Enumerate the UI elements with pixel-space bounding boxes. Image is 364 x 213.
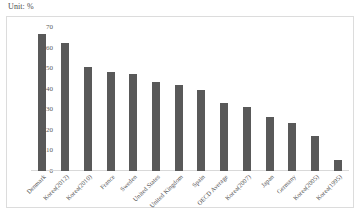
bar-slot [190,27,213,171]
chart-frame: 010203040506070 DenmarkKorea(2012)Korea(… [6,16,354,208]
x-axis-label-slot: United Kingdom [167,173,190,213]
bar [288,123,296,171]
x-axis-label-slot: Korea(1995) [326,173,349,213]
x-axis-label-slot: Korea(2007) [235,173,258,213]
bar-slot [145,27,168,171]
x-axis-label: Sweden [119,173,138,192]
bar [61,43,69,171]
bar-slot [326,27,349,171]
bar-slot [99,27,122,171]
bar-series [31,27,349,171]
bar-slot [31,27,54,171]
x-axis-label: Spain [191,173,206,188]
bar [243,107,251,171]
bar-slot [76,27,99,171]
bar [84,67,92,171]
bar [129,74,137,171]
bar-slot [213,27,236,171]
bar-slot [281,27,304,171]
bar-slot [235,27,258,171]
x-axis-labels: DenmarkKorea(2012)Korea(2010)FranceSwede… [31,173,349,213]
bar [107,72,115,171]
x-axis-label-slot: Korea(2010) [76,173,99,213]
x-axis-label: France [98,173,115,190]
bar-slot [122,27,145,171]
bar [152,82,160,171]
unit-label: Unit: % [8,2,34,12]
bar [197,90,205,171]
bar [334,160,342,171]
bar [220,103,228,171]
bar-slot [167,27,190,171]
bar [311,136,319,171]
bar [266,117,274,172]
bar-slot [54,27,77,171]
bar-slot [258,27,281,171]
bar [38,34,46,171]
bar-slot [304,27,327,171]
bar [175,85,183,171]
x-axis-label: Japan [259,173,274,188]
plot-area: 010203040506070 [31,27,349,171]
x-axis-label-slot: France [99,173,122,213]
x-axis-label: Denmark [25,173,47,195]
